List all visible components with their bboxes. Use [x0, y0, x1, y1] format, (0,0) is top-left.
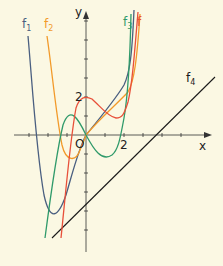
label-f2: f2 [44, 17, 53, 33]
y-axis-label: y [75, 5, 82, 19]
x-axis [14, 132, 212, 138]
label-f: f [137, 15, 142, 29]
label-f1: f1 [22, 17, 31, 33]
y-axis-arrow-icon [83, 11, 89, 19]
graph-canvas: f1 f2 f3 f f4 y x O 2 2 [0, 0, 223, 266]
function-graph: f1 f2 f3 f f4 y x O 2 2 [0, 0, 223, 266]
x-axis-label: x [199, 139, 206, 153]
curve-f3 [45, 14, 131, 238]
x-tick-label-2: 2 [120, 138, 128, 152]
curve-f [61, 12, 138, 238]
label-f4: f4 [186, 71, 195, 87]
origin-label: O [75, 137, 84, 151]
y-tick-label-2: 2 [75, 90, 83, 104]
x-axis-arrow-icon [204, 132, 212, 138]
curve-f1 [28, 10, 134, 214]
